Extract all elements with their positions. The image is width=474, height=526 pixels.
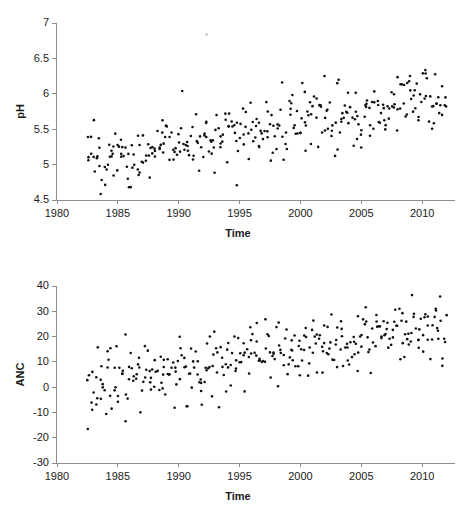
data-point — [415, 82, 418, 85]
data-point — [87, 159, 90, 162]
data-point — [305, 124, 308, 127]
data-point — [329, 341, 332, 344]
data-point — [236, 184, 239, 187]
data-point — [413, 89, 416, 92]
data-point — [221, 366, 224, 369]
data-point — [384, 128, 387, 131]
data-point — [431, 324, 434, 327]
data-point — [406, 338, 409, 341]
x-tick-label: 2010 — [410, 470, 434, 482]
data-point — [193, 366, 196, 369]
data-point — [112, 145, 115, 148]
y-tick-label: 7 — [43, 16, 49, 28]
data-point — [199, 135, 202, 138]
data-point — [390, 91, 393, 94]
data-point — [301, 359, 304, 362]
data-point — [91, 371, 94, 374]
data-point — [97, 346, 100, 349]
data-point — [294, 365, 297, 368]
data-point — [356, 370, 359, 373]
data-point — [419, 93, 422, 96]
data-point — [209, 335, 212, 338]
data-point — [441, 357, 444, 360]
data-point — [377, 100, 380, 103]
data-point — [100, 365, 103, 368]
data-point — [266, 130, 269, 133]
data-point — [159, 355, 162, 358]
data-point — [405, 320, 408, 323]
data-point — [273, 358, 276, 361]
data-point — [351, 356, 354, 359]
data-point — [380, 337, 383, 340]
data-point — [235, 140, 238, 143]
data-point — [337, 78, 340, 81]
data-point — [147, 143, 150, 146]
data-point — [240, 361, 243, 364]
data-point — [255, 354, 258, 357]
data-point — [181, 90, 184, 93]
data-point — [318, 337, 321, 340]
data-point — [317, 146, 320, 149]
data-point — [99, 379, 102, 382]
data-point — [90, 401, 93, 404]
data-point — [234, 370, 237, 373]
data-point — [349, 106, 352, 109]
data-point — [426, 324, 429, 327]
data-point — [113, 389, 116, 392]
y-tick-label: 4.5 — [34, 193, 49, 205]
x-tick-label: 2005 — [349, 470, 373, 482]
data-point — [87, 136, 90, 139]
data-point — [377, 121, 380, 124]
data-point — [131, 144, 134, 147]
data-point — [369, 372, 372, 375]
data-point — [162, 142, 165, 145]
data-point — [231, 352, 234, 355]
data-point — [174, 370, 177, 373]
data-point — [360, 334, 363, 337]
data-point — [132, 153, 135, 156]
data-point — [431, 338, 434, 341]
data-point — [178, 141, 181, 144]
data-point — [336, 326, 339, 329]
data-point — [439, 319, 442, 322]
data-point — [174, 147, 177, 150]
data-point — [373, 101, 376, 104]
data-point — [346, 359, 349, 362]
data-point — [398, 307, 401, 310]
data-point — [150, 377, 153, 380]
data-point — [316, 333, 319, 336]
data-point — [130, 186, 133, 189]
data-point — [271, 355, 274, 358]
data-point — [366, 99, 369, 102]
data-point — [239, 123, 242, 126]
data-point — [114, 386, 117, 389]
data-point — [284, 143, 287, 146]
data-point — [178, 335, 181, 338]
data-point — [98, 137, 101, 140]
data-point — [175, 383, 178, 386]
data-point — [289, 356, 292, 359]
data-point — [336, 82, 339, 85]
x-tick-label: 1995 — [227, 207, 251, 219]
data-point — [265, 101, 268, 104]
data-point — [410, 332, 413, 335]
data-point — [120, 155, 123, 158]
data-point — [187, 149, 190, 152]
data-point — [441, 85, 444, 88]
data-point — [208, 366, 211, 369]
data-point — [247, 158, 250, 161]
data-point — [145, 159, 148, 162]
data-point — [408, 343, 411, 346]
y-tick-label: 20 — [37, 330, 49, 342]
data-point — [311, 105, 314, 108]
data-point — [382, 107, 385, 110]
data-point — [291, 359, 294, 362]
data-point — [164, 393, 167, 396]
data-point — [277, 321, 280, 324]
data-point — [424, 72, 427, 75]
data-point — [369, 134, 372, 137]
data-point — [418, 328, 421, 331]
data-point — [298, 339, 301, 342]
data-point — [117, 395, 120, 398]
data-point — [138, 366, 141, 369]
